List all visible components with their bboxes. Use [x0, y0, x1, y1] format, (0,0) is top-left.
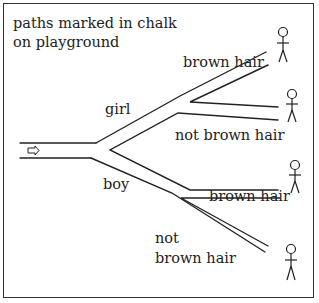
label-boy-not: not [155, 229, 179, 248]
label-girl: girl [105, 100, 131, 119]
stick-figure-boy-brown-hair [289, 161, 301, 194]
label-girl-brown-hair: brown hair [183, 53, 264, 72]
label-boy: boy [103, 175, 129, 194]
stick-figure-boy-not-brown-hair [285, 245, 297, 281]
diagram-frame: paths marked in chalk on playground [0, 0, 319, 303]
stick-figure-girl-brown-hair [277, 28, 289, 63]
label-boy-not-brown-hair: brown hair [155, 249, 236, 268]
label-boy-brown-hair: brown hair [209, 187, 290, 206]
right-arrow-icon [28, 146, 39, 155]
label-girl-not-brown-hair: not brown hair [175, 126, 284, 145]
fork-inner [110, 113, 278, 190]
stick-figure-girl-not-brown-hair [286, 90, 298, 123]
